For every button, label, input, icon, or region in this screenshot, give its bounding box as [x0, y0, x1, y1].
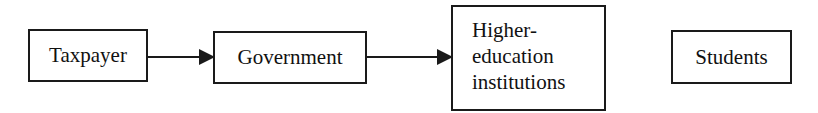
- arrow-government-to-higher-education: [367, 56, 452, 58]
- government-node: Government: [213, 31, 367, 84]
- higher-education-label-line-3: institutions: [472, 69, 565, 95]
- government-label: Government: [238, 47, 343, 68]
- higher-education-label-line-1: Higher-: [472, 17, 537, 43]
- taxpayer-label: Taxpayer: [49, 45, 127, 66]
- taxpayer-node: Taxpayer: [28, 29, 148, 82]
- students-node: Students: [671, 30, 792, 84]
- higher-education-label-line-2: education: [472, 43, 554, 69]
- students-label: Students: [695, 47, 767, 68]
- higher-education-node: Higher- education institutions: [451, 5, 606, 111]
- arrow-taxpayer-to-government: [148, 56, 214, 58]
